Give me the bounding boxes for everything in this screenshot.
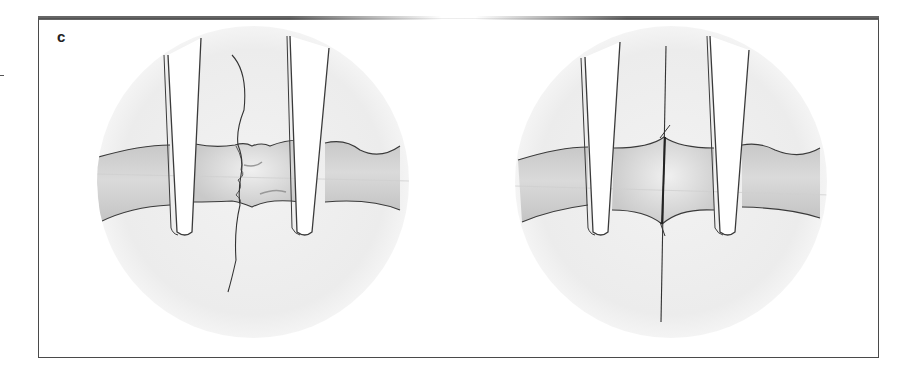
left-vessel-ends (193, 140, 300, 207)
anastomosis-illustration (0, 0, 905, 382)
left-panel (95, 26, 410, 338)
right-panel (515, 26, 830, 338)
